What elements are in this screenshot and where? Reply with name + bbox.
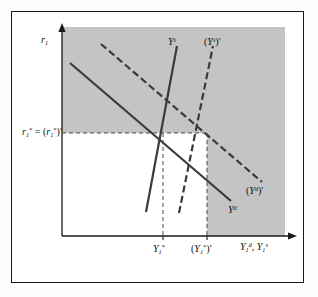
equilibrium-rate-label: r1* = (r1*)' xyxy=(22,127,62,138)
supply-curve-shifted-label: (Ys)' xyxy=(204,37,220,47)
x-axis-label: Y1d, Y1s xyxy=(240,242,268,253)
white-inset-region xyxy=(62,133,207,236)
figure-container: r1 r1* = (r1*)' Y1* (Y1*)' Y1d, Y1s Ys (… xyxy=(0,0,318,297)
supply-curve-original-label: Ys xyxy=(168,37,176,47)
y-axis-label: r1 xyxy=(41,35,48,46)
demand-curve-shifted-label: (Yd)' xyxy=(246,186,263,196)
x-axis-arrowhead xyxy=(288,232,297,239)
demand-curve-original-label: Yd xyxy=(228,205,237,215)
shifted-output-label: (Y1*)' xyxy=(191,244,211,255)
equilibrium-output-label: Y1* xyxy=(153,244,165,255)
